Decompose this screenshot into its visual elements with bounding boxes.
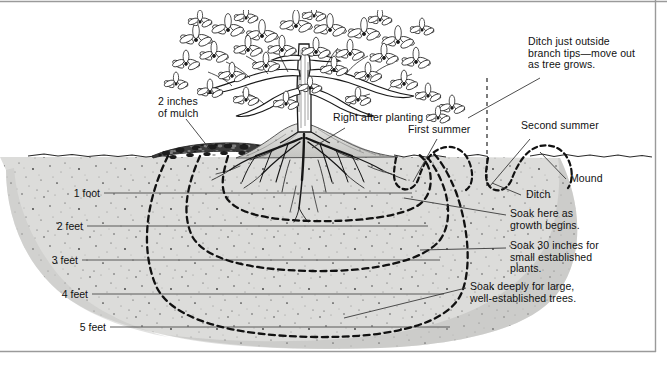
callout-ditch-just-outside: Ditch just outside branch tips—move out … — [528, 36, 635, 71]
callout-soak-deeply: Soak deeply for large, well-established … — [470, 281, 576, 304]
callout-soak-30-inches: Soak 30 inches for small established pla… — [510, 240, 599, 275]
depth-label-1-foot: 1 foot — [38, 187, 100, 199]
callout-soak-here-as-growth-begins: Soak here as growth begins. — [510, 208, 580, 231]
watering-depth-diagram: 2 inches of mulch Right after planting D… — [0, 0, 667, 371]
depth-label-2-feet: 2 feet — [21, 220, 83, 232]
callout-right-after-planting: Right after planting — [333, 112, 423, 124]
callout-first-summer: First summer — [408, 124, 470, 136]
tree-canopy — [163, 4, 466, 124]
planting-berm — [236, 123, 398, 158]
depth-label-4-feet: 4 feet — [26, 288, 88, 300]
leader-ditch-outside — [468, 78, 540, 118]
callout-mulch: 2 inches of mulch — [158, 96, 198, 119]
depth-label-5-feet: 5 feet — [44, 321, 106, 333]
depth-label-3-feet: 3 feet — [16, 254, 78, 266]
callout-mound: Mound — [570, 173, 603, 185]
callout-second-summer: Second summer — [521, 120, 599, 132]
callout-ditch: Ditch — [526, 189, 550, 201]
